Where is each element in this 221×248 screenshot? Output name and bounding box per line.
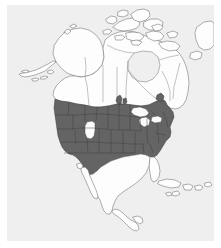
figure-container [0,0,221,248]
region-greenland-edge[interactable] [190,21,214,60]
region-central-america[interactable] [112,209,143,231]
north-america-map[interactable] [7,5,214,241]
great-basin-gap [85,121,95,139]
great-lakes-erie-ontario [151,116,162,123]
region-florida[interactable] [149,157,160,182]
region-caribbean[interactable] [158,179,212,196]
map-panel [7,5,214,241]
region-alaska[interactable] [19,24,104,81]
